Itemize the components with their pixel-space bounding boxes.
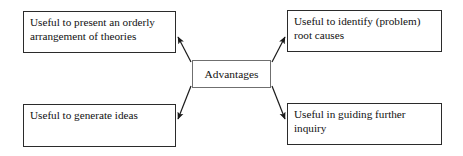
branch-node-top-right[interactable]: Useful to identify (problem) root causes (287, 10, 442, 52)
connector-hub-to-bottom-left (178, 86, 191, 119)
connector-hub-to-top-right (272, 37, 285, 62)
connector-hub-to-top-left (178, 37, 191, 62)
branch-node-bottom-left[interactable]: Useful to generate ideas (23, 104, 176, 147)
branch-node-bottom-right[interactable]: Useful in guiding further inquiry (287, 103, 442, 145)
branch-node-top-left[interactable]: Useful to present an orderly arrangement… (23, 11, 176, 53)
diagram-canvas: Useful to present an orderly arrangement… (0, 0, 463, 156)
connector-hub-to-bottom-right (272, 86, 285, 119)
center-node-advantages[interactable]: Advantages (192, 60, 271, 88)
